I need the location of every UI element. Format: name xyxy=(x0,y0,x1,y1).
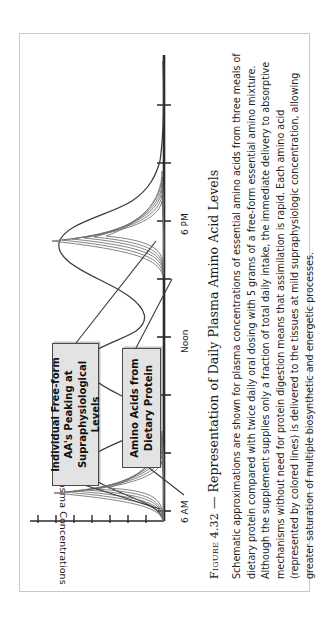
x-tick-label-6am: 6 AM xyxy=(180,500,190,523)
callout-dietary-text: Amino Acids from Dietary Protein xyxy=(128,358,155,457)
figure-title-dash: — xyxy=(206,496,221,509)
callout-dietary-line2: Dietary Protein xyxy=(143,365,154,451)
callout-dietary-line1: Amino Acids from xyxy=(129,358,140,457)
figure-title: Figure 4.32 — Representation of Daily Pl… xyxy=(206,47,221,579)
figure-number: Figure 4.32 xyxy=(208,513,221,579)
figure-body-text: Schematic approximations are shown for p… xyxy=(230,51,317,579)
callout-freeform-line1: Individual Free-form xyxy=(50,357,61,472)
callout-freeform-line3: Supraphysiological Levels xyxy=(77,361,102,468)
callout-freeform-line2: AA's Peaking at xyxy=(63,370,74,458)
figure-chart: Plasma Concentrations xyxy=(24,41,196,581)
book-page: Plasma Concentrations xyxy=(0,0,332,623)
figure-caption-block: Figure 4.32 — Representation of Daily Pl… xyxy=(206,47,317,579)
y-axis xyxy=(30,515,164,523)
callout-freeform-aas: Individual Free-form AA's Peaking at Sup… xyxy=(52,343,99,486)
rotated-figure-stage: Plasma Concentrations xyxy=(20,34,309,591)
x-tick-label-noon: Noon xyxy=(180,330,190,353)
figure-title-text: Representation of Daily Plasma Amino Aci… xyxy=(206,170,221,493)
x-tick-label-6pm: 6 PM xyxy=(180,213,190,235)
callout-dietary-protein: Amino Acids from Dietary Protein xyxy=(122,348,161,468)
callout-freeform-text: Individual Free-form AA's Peaking at Sup… xyxy=(49,349,103,480)
